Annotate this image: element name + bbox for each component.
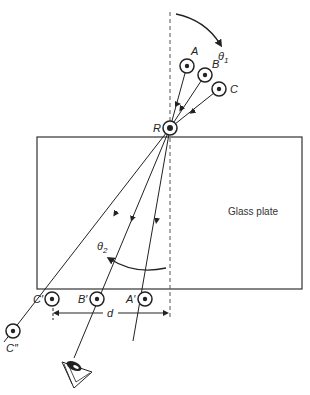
- theta1-arc: [176, 14, 220, 44]
- theta1-label: θ1: [218, 50, 228, 65]
- label-R: R: [153, 122, 161, 134]
- ray-A-incident: [170, 66, 187, 128]
- pin-C-prime: [45, 292, 59, 306]
- theta2-arc: [110, 259, 166, 270]
- theta2-label: θ2: [97, 240, 108, 255]
- pin-B: [198, 68, 212, 82]
- d-label: d: [107, 307, 114, 319]
- label-B: B: [212, 58, 219, 70]
- glass-plate-label: Glass plate: [228, 206, 278, 217]
- label-A-prime: A′: [125, 293, 136, 305]
- pin-A: [180, 59, 194, 73]
- pin-C-double-prime: [6, 324, 20, 338]
- eye-icon: [62, 359, 92, 388]
- ray-B-refracted: [74, 128, 170, 358]
- label-C-prime: C′: [33, 293, 44, 305]
- pin-A-prime: [138, 292, 152, 306]
- label-A: A: [190, 45, 198, 57]
- refraction-diagram: Glass plate θ1 θ2 A B C R A′ B′ C′ C″ d: [0, 0, 310, 395]
- pin-C: [212, 82, 226, 96]
- label-C-double-prime: C″: [6, 342, 19, 354]
- ray-C-refracted: [4, 128, 170, 342]
- ray-A-refracted: [133, 128, 170, 341]
- ray-B-incident: [170, 75, 205, 128]
- label-C: C: [230, 83, 238, 95]
- pin-B-prime: [90, 292, 104, 306]
- ray-C-incident: [170, 89, 219, 128]
- label-B-prime: B′: [78, 293, 88, 305]
- pin-R: [163, 121, 177, 135]
